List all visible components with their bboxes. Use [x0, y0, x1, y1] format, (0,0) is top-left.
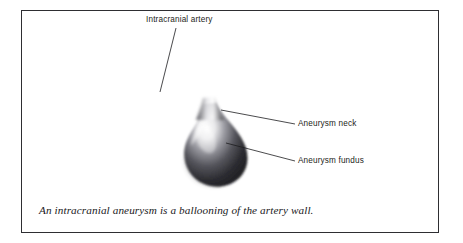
figure-caption: An intracranial aneurysm is a ballooning… [39, 204, 314, 216]
label-intracranial-artery: Intracranial artery [146, 15, 213, 24]
aneurysm-figure: Intracranial artery Aneurysm neck Aneury… [0, 0, 463, 243]
label-aneurysm-fundus: Aneurysm fundus [298, 156, 364, 165]
intracranial-artery [84, 76, 368, 112]
label-aneurysm-neck: Aneurysm neck [298, 119, 356, 128]
leader-line-neck [221, 110, 295, 124]
